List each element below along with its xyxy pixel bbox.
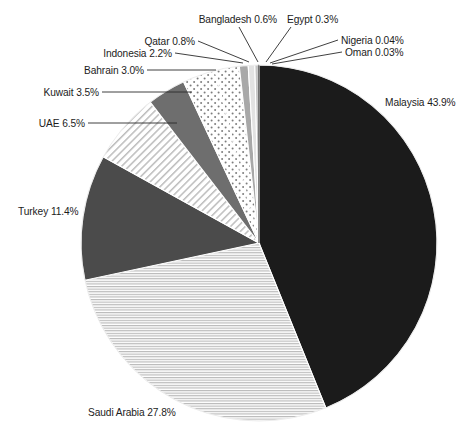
- slice-label-indonesia: Indonesia 2.2%: [103, 48, 172, 59]
- pie-chart-page: Malaysia 43.9% Saudi Arabia 27.8% Turkey…: [0, 0, 465, 441]
- leader-line-oman: [272, 52, 342, 64]
- slice-label-kuwait: Kuwait 3.5%: [43, 87, 99, 98]
- slice-label-nigeria: Nigeria 0.04%: [341, 35, 404, 46]
- slice-label-bangladesh: Bangladesh 0.6%: [199, 14, 277, 25]
- slice-label-turkey: Turkey 11.4%: [18, 206, 79, 217]
- slice-label-uae: UAE 6.5%: [39, 118, 85, 129]
- leader-line-indonesia: [175, 53, 243, 63]
- pie-chart-figure: Malaysia 43.9% Saudi Arabia 27.8% Turkey…: [0, 0, 465, 441]
- leader-line-qatar: [198, 41, 249, 62]
- slice-label-egypt: Egypt 0.3%: [287, 14, 338, 25]
- leader-line-nigeria: [270, 40, 338, 63]
- slice-label-saudi-arabia: Saudi Arabia 27.8%: [88, 407, 176, 418]
- pie-slices: [81, 65, 437, 421]
- slice-label-oman: Oman 0.03%: [345, 47, 404, 58]
- slice-label-malaysia: Malaysia 43.9%: [385, 97, 456, 108]
- leader-line-bangladesh: [239, 27, 258, 62]
- slice-label-qatar: Qatar 0.8%: [144, 36, 195, 47]
- slice-label-bahrain: Bahrain 3.0%: [84, 65, 144, 76]
